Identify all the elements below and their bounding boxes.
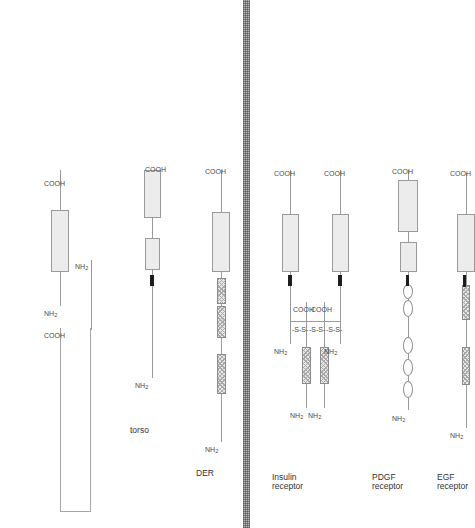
insulin-beta-1-kinase-domain [282, 214, 299, 272]
insulin-disulfide-bond-3 [324, 321, 340, 322]
der-cysteine-rich-3 [217, 278, 226, 304]
der-n-terminus-label: NH2 [205, 446, 218, 455]
insulin-beta-1-transmembrane [288, 275, 292, 286]
der-c-terminus-label: COOH [205, 168, 226, 176]
sevenless-lower-arm [91, 260, 92, 330]
egf-cysteine-rich-2 [462, 285, 470, 320]
pdgf-transmembrane [406, 275, 409, 286]
pdgf-ig-loop-4 [403, 300, 413, 317]
receptor-label-egf-receptor: EGF receptor [437, 473, 468, 491]
insulin-beta-1-n-terminus-label: NH2 [274, 348, 287, 357]
egf-c-terminus-label: COOH [450, 170, 471, 178]
insulin-beta-2-transmembrane [338, 275, 342, 286]
plasma-membrane-bar [243, 0, 250, 528]
insulin-disulfide-label-2: -S-S- [309, 326, 325, 334]
egf-cysteine-rich-1 [462, 347, 470, 385]
receptor-label-insulin-receptor: Insulin receptor [272, 473, 303, 491]
torso-n-terminus-label: NH2 [135, 382, 148, 391]
pdgf-ig-loop-2 [403, 359, 413, 376]
sevenless-n-terminus-label-upper: NH2 [44, 310, 57, 319]
receptor-label-pdgf-receptor: PDGF receptor [372, 473, 403, 491]
insulin-disulfide-label-1: -S-S- [292, 326, 308, 334]
torso-transmembrane [150, 275, 154, 286]
sevenless-extracellular-hairpin [60, 328, 91, 512]
insulin-beta-2-n-terminus-label: NH2 [324, 348, 337, 357]
pdgf-c-terminus-label: COOH [392, 168, 413, 176]
sevenless-n-terminus-label-lower: NH2 [75, 263, 88, 272]
egf-kinase-domain-1 [457, 214, 475, 272]
insulin-alpha-2-n-terminus-label: NH2 [308, 412, 321, 421]
pdgf-kinase-domain-1 [400, 242, 417, 272]
torso-kinase-domain-2 [144, 170, 161, 218]
insulin-beta-2-c-terminus-label: COOH [324, 170, 345, 178]
sevenless-upper-arm [60, 328, 61, 330]
pdgf-ig-loop-3 [403, 337, 413, 354]
insulin-disulfide-label-3: -S-S- [326, 326, 342, 334]
pdgf-kinase-domain-2 [398, 180, 418, 232]
pdgf-n-terminus-label: NH2 [392, 415, 405, 424]
egf-transmembrane [463, 275, 466, 287]
sevenless-c-terminus-loop-label: COOH [44, 332, 65, 340]
insulin-alpha-1-cysteine-rich [302, 347, 311, 384]
sevenless-kinase-domain-1 [51, 210, 69, 272]
der-cysteine-rich-2 [217, 306, 226, 338]
receptor-label-der: DER [196, 468, 214, 478]
der-kinase-domain-1 [212, 212, 230, 272]
receptor-label-torso: torso [130, 425, 149, 435]
insulin-alpha-2-c-terminus-label: COOH [311, 306, 332, 314]
insulin-disulfide-bond-2 [306, 321, 324, 322]
pdgf-ig-loop-1 [403, 381, 413, 398]
insulin-beta-2-kinase-domain [332, 214, 349, 272]
pdgf-ig-loop-5 [403, 284, 413, 299]
insulin-disulfide-bond-1 [290, 321, 306, 322]
insulin-beta-1-c-terminus-label: COOH [274, 170, 295, 178]
torso-c-terminus-label: COOH [145, 166, 166, 174]
torso-kinase-domain-1 [145, 238, 160, 270]
der-cysteine-rich-1 [217, 354, 226, 394]
egf-n-terminus-label: NH2 [450, 432, 463, 441]
insulin-alpha-1-n-terminus-label: NH2 [290, 412, 303, 421]
sevenless-c-terminus-label: COOH [44, 180, 65, 188]
